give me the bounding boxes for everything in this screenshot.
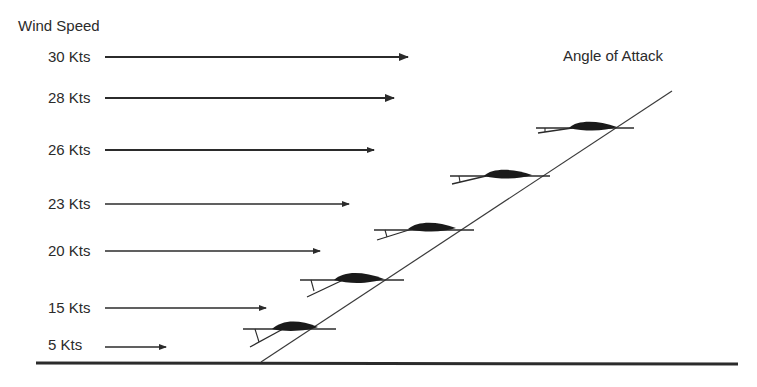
wind-arrows <box>105 57 408 347</box>
ground-line <box>36 363 738 364</box>
kite-angle-diagram <box>0 0 757 387</box>
kite-line <box>261 91 672 362</box>
kite-2 <box>300 273 404 297</box>
kite-5 <box>536 122 634 133</box>
